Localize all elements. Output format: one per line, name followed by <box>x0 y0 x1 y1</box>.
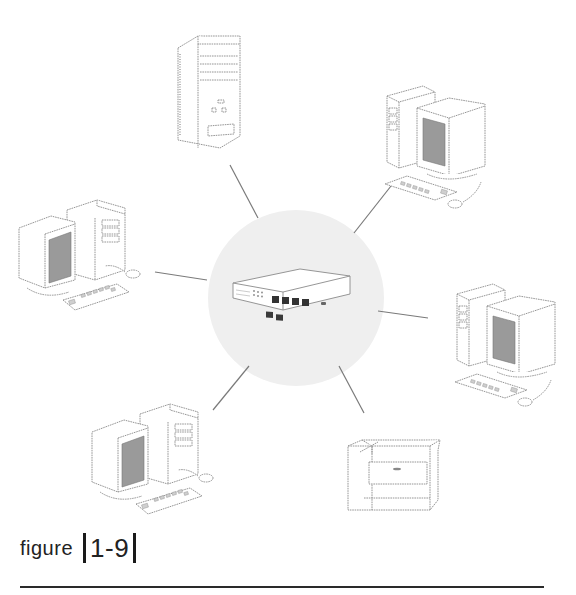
printer-icon <box>348 440 440 510</box>
switch-port <box>282 297 289 304</box>
switch-uplink-port <box>321 302 326 305</box>
switch-port <box>272 296 279 303</box>
caption-rule <box>20 586 544 588</box>
switch-port <box>302 299 309 306</box>
figure-number: 1-9 <box>90 533 129 564</box>
workstation-right-icon <box>455 284 555 406</box>
link-server-tower <box>230 165 258 218</box>
link-workstation-left <box>155 272 207 280</box>
caption-bar-left <box>83 533 86 563</box>
caption-bar-right <box>133 533 136 563</box>
workstation-left-icon <box>19 200 140 310</box>
link-printer <box>339 366 364 413</box>
figure-caption: figure 1-9 <box>20 530 136 566</box>
workstation-bottom-left-icon <box>92 404 213 514</box>
link-workstation-bottom-left <box>213 366 249 410</box>
caption-word: figure <box>20 537 73 560</box>
server-tower-icon <box>178 36 240 148</box>
workstation-top-right-icon <box>385 86 485 208</box>
star-topology-diagram <box>0 0 576 595</box>
link-workstation-right <box>378 311 428 318</box>
link-workstation-top-right <box>354 186 391 233</box>
switch-port <box>292 298 299 305</box>
